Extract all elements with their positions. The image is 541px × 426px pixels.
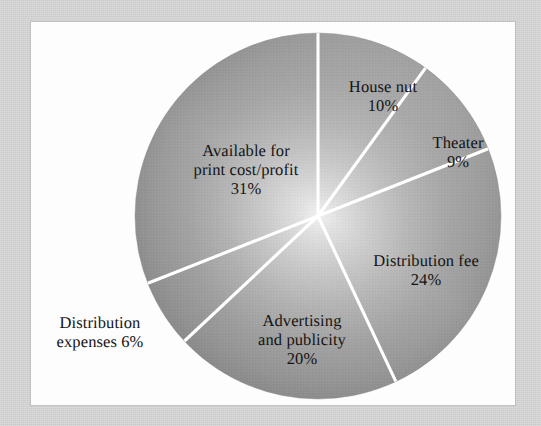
pie-label-house-nut-name: House nut bbox=[349, 77, 417, 96]
pie-label-distribution-expenses: Distribution expenses 6% bbox=[14, 294, 186, 351]
figure-page: House nut 10% Theater 9% Distribution fe… bbox=[0, 0, 541, 426]
pie-label-distribution-fee-percent: 24% bbox=[340, 270, 512, 289]
pie-label-available-name: Available for print cost/profit bbox=[194, 141, 299, 179]
pie-label-distribution-fee-name: Distribution fee bbox=[373, 251, 479, 270]
pie-label-house-nut-percent: 10% bbox=[318, 96, 448, 115]
pie-label-theater-percent: 9% bbox=[400, 152, 516, 171]
pie-label-advertising-name: Advertising and publicity bbox=[258, 311, 346, 349]
pie-label-distribution-expenses-name: Distribution expenses 6% bbox=[57, 313, 144, 351]
pie-label-available-for-print-cost-profit: Available for print cost/profit 31% bbox=[148, 122, 344, 218]
pie-label-available-percent: 31% bbox=[148, 179, 344, 198]
pie-label-theater-name: Theater bbox=[432, 133, 483, 152]
pie-label-theater: Theater 9% bbox=[400, 114, 516, 191]
pie-label-advertising-and-publicity: Advertising and publicity 20% bbox=[222, 292, 382, 388]
pie-label-advertising-percent: 20% bbox=[222, 349, 382, 368]
